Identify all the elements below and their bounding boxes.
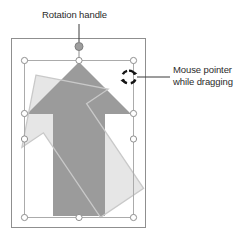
selection-handle-bottom-right[interactable] [130, 214, 136, 220]
selection-handle-bottom-left[interactable] [21, 214, 27, 220]
selection-handle-top-center[interactable] [76, 57, 82, 63]
callout-label-mouse-pointer-line1: Mouse pointer [173, 64, 232, 75]
selection-handle-lower-left[interactable] [21, 136, 27, 142]
selection-handle-top-left[interactable] [21, 57, 27, 63]
selection-handle-lower-right[interactable] [130, 136, 136, 142]
rotation-handle-dot[interactable] [75, 43, 83, 51]
selection-handle-bottom-center[interactable] [76, 214, 82, 220]
selection-handle-middle-left[interactable] [21, 110, 27, 116]
rotation-handle-illustration [0, 0, 236, 242]
callout-label-mouse-pointer-line2: while dragging [173, 76, 233, 88]
callout-label-rotation-handle: Rotation handle [42, 9, 107, 21]
selection-handle-top-right[interactable] [130, 57, 136, 63]
selection-handle-middle-right[interactable] [130, 110, 136, 116]
callout-label-mouse-pointer: Mouse pointerwhile dragging [173, 64, 233, 87]
